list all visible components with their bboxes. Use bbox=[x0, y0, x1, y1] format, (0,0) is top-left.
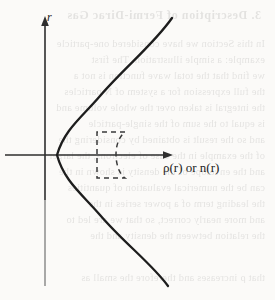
density-profile-figure: r ρ(r) or n(r) bbox=[0, 0, 275, 300]
figure-canvas bbox=[0, 0, 275, 300]
figure-page: 3. Description of Fermi-Dirac Gas In thi… bbox=[0, 0, 275, 300]
x-axis-label: ρ(r) or n(r) bbox=[163, 160, 219, 176]
y-axis-label: r bbox=[47, 10, 52, 25]
density-profile-curve bbox=[57, 18, 172, 286]
x-axis-arrow-icon bbox=[163, 151, 173, 159]
